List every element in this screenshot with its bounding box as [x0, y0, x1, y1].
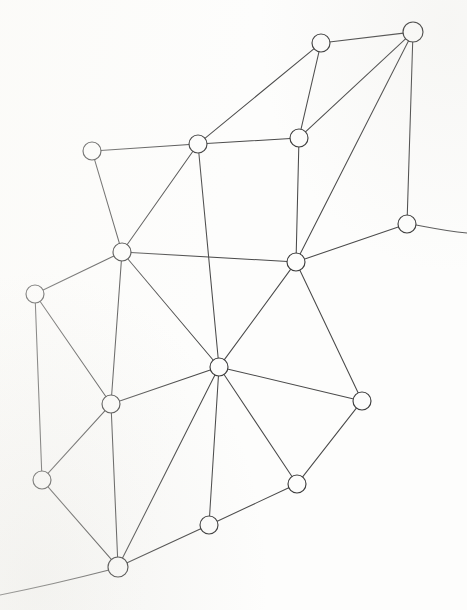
- graph-node[interactable]: [210, 358, 228, 376]
- graph-edge: [224, 374, 293, 477]
- graph-node[interactable]: [200, 516, 218, 534]
- graph-node[interactable]: [288, 475, 306, 493]
- node-layer: [26, 22, 423, 577]
- graph-node[interactable]: [83, 142, 101, 160]
- edge-layer: [35, 33, 412, 563]
- graph-edge: [329, 33, 403, 42]
- graph-edge: [407, 42, 412, 216]
- graph-edge: [304, 227, 399, 260]
- graph-edge: [94, 159, 119, 244]
- graph-edge: [122, 375, 215, 559]
- graph-edge: [48, 486, 112, 559]
- graph-edge: [300, 40, 409, 254]
- graph-edge: [127, 151, 193, 245]
- boundary-curve-bottom-tail: [0, 570, 109, 595]
- graph-node[interactable]: [312, 34, 330, 52]
- graph-edge: [100, 145, 189, 151]
- graph-edge: [127, 529, 202, 563]
- graph-edge: [111, 412, 117, 557]
- graph-edge: [48, 410, 106, 473]
- boundary-curve-layer: [0, 225, 467, 595]
- graph-node[interactable]: [113, 243, 131, 261]
- graph-edge: [205, 48, 315, 138]
- graph-edge: [112, 260, 122, 395]
- boundary-curve-right-tail: [416, 225, 467, 233]
- graph-node[interactable]: [287, 253, 305, 271]
- graph-edge: [301, 51, 319, 129]
- graph-node[interactable]: [398, 215, 416, 233]
- graph-edge: [43, 256, 115, 291]
- graph-edge: [227, 369, 353, 399]
- graph-node[interactable]: [403, 22, 423, 42]
- graph-node[interactable]: [102, 395, 120, 413]
- graph-edge: [119, 370, 211, 402]
- graph-node[interactable]: [189, 135, 207, 153]
- graph-edge: [210, 375, 219, 516]
- diagram-canvas: [0, 0, 467, 610]
- graph-node[interactable]: [26, 285, 44, 303]
- graph-edge: [35, 302, 41, 471]
- graph-edge: [300, 270, 359, 394]
- graph-edge: [127, 259, 213, 361]
- graph-node[interactable]: [33, 471, 51, 489]
- graph-node[interactable]: [290, 129, 308, 147]
- graph-edge: [206, 139, 290, 144]
- graph-edge: [296, 147, 299, 254]
- graph-svg: [0, 0, 467, 610]
- graph-edge: [217, 488, 290, 522]
- graph-edge: [40, 301, 106, 397]
- graph-node[interactable]: [353, 392, 371, 410]
- graph-edge: [224, 269, 291, 360]
- graph-node[interactable]: [108, 557, 128, 577]
- graph-edge: [302, 408, 357, 478]
- graph-edge: [199, 152, 218, 358]
